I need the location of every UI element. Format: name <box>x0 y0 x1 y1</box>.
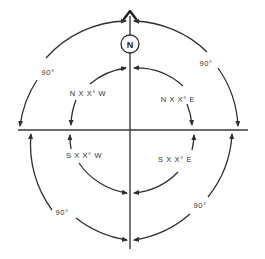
inner-arc-se-to-south <box>134 172 178 193</box>
bearing-compass-diagram: N N X X° W N X X° E S X X° W S X X° E 90… <box>0 0 265 259</box>
north-label: N <box>127 40 134 50</box>
inner-arc-nw-to-north <box>90 68 126 84</box>
quadrant-label-nw: N X X° W <box>70 89 107 98</box>
quadrant-label-ne: N X X° E <box>161 95 195 104</box>
outer-arc-sw-to-west <box>30 134 52 210</box>
outer-arc-nw-to-north <box>46 21 126 58</box>
inner-arc-ne-to-east <box>187 104 192 125</box>
inner-arc-nw-to-west <box>71 100 76 125</box>
angle-label-sw: 90° <box>55 208 68 217</box>
quadrant-label-sw: S X X° W <box>66 151 102 160</box>
outer-arc-ne-to-north <box>134 21 207 52</box>
inner-arc-ne-to-north <box>134 68 183 86</box>
outer-arc-se-to-south <box>134 214 190 240</box>
quadrant-label-se: S X X° E <box>158 155 192 164</box>
outer-arc-ne-to-east <box>218 68 238 126</box>
angle-label-ne: 90° <box>199 59 212 68</box>
outer-arc-se-to-east <box>208 134 232 197</box>
outer-arc-nw-to-west <box>20 80 37 126</box>
angle-label-nw: 90° <box>41 68 54 77</box>
angle-label-se: 90° <box>193 201 206 210</box>
outer-arc-sw-to-south <box>76 218 127 240</box>
inner-arc-se-to-east <box>192 135 194 150</box>
inner-arc-sw-to-west <box>70 135 71 149</box>
inner-arc-sw-to-south <box>79 163 127 193</box>
